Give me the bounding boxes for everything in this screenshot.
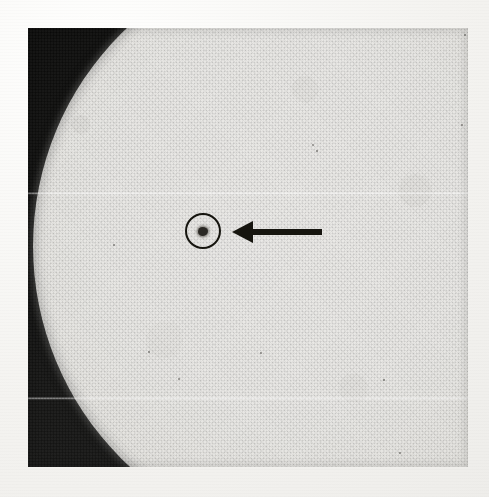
dust-speck (399, 452, 401, 454)
dust-speck (316, 150, 318, 152)
dust-speck (148, 351, 150, 353)
sunspot-arrow-head (232, 221, 253, 243)
dust-speck (312, 144, 314, 146)
dust-speck (113, 244, 115, 246)
dust-speck (260, 352, 262, 354)
solar-limb-edge (33, 28, 468, 467)
sunspot-arrow-shaft (253, 229, 322, 235)
screenshot-root (0, 0, 489, 497)
sunspot-circle-marker (185, 213, 221, 249)
dust-speck (383, 379, 385, 381)
solar-photograph-plate (28, 28, 468, 467)
